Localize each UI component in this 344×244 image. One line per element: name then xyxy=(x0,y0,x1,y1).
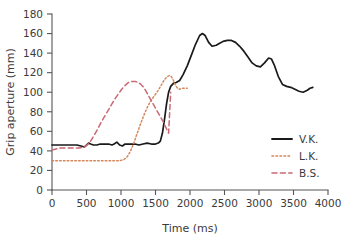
x-tick-label: 1000 xyxy=(108,197,135,209)
y-tick-label: 20 xyxy=(30,164,43,176)
y-axis-ticks: 020406080100120140160180 xyxy=(23,8,52,196)
y-tick-label: 160 xyxy=(23,27,43,39)
x-tick-label: 1500 xyxy=(142,197,169,209)
x-axis-ticks: 05001000150020002500300035004000 xyxy=(49,190,342,209)
y-axis-title: Grip aperture (mm) xyxy=(4,48,17,155)
legend-label-vk: V.K. xyxy=(299,133,318,145)
x-tick-label: 0 xyxy=(49,197,56,209)
data-series-group xyxy=(52,34,313,161)
y-tick-label: 100 xyxy=(23,86,43,98)
x-tick-label: 2000 xyxy=(177,197,204,209)
axes-group: 020406080100120140160180 050010001500200… xyxy=(23,8,341,209)
chart-figure: 020406080100120140160180 050010001500200… xyxy=(0,0,344,244)
x-tick-label: 2500 xyxy=(211,197,238,209)
x-tick-label: 3500 xyxy=(280,197,307,209)
grip-aperture-line-chart: 020406080100120140160180 050010001500200… xyxy=(0,0,344,244)
series-line-vk xyxy=(52,34,313,147)
x-tick-label: 4000 xyxy=(315,197,342,209)
y-tick-label: 80 xyxy=(30,106,43,118)
x-tick-label: 3000 xyxy=(246,197,273,209)
y-tick-label: 40 xyxy=(30,145,43,157)
legend-label-bs: B.S. xyxy=(299,167,320,179)
y-tick-label: 140 xyxy=(23,47,43,59)
legend-label-lk: L.K. xyxy=(299,150,318,162)
y-tick-label: 60 xyxy=(30,125,43,137)
series-line-bs xyxy=(52,81,171,149)
y-tick-label: 180 xyxy=(23,8,43,20)
y-tick-label: 0 xyxy=(36,184,43,196)
y-tick-label: 120 xyxy=(23,66,43,78)
x-tick-label: 500 xyxy=(76,197,96,209)
chart-legend: V.K.L.K.B.S. xyxy=(272,133,320,179)
x-axis-title: Time (ms) xyxy=(161,222,217,235)
